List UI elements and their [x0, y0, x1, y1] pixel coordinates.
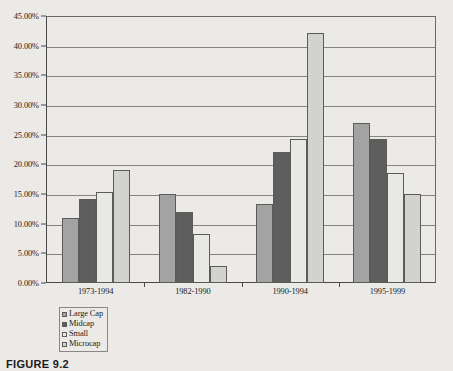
- y-tick-label: 0.00%: [18, 279, 39, 288]
- bar[interactable]: [176, 212, 193, 283]
- x-tick-mark: [144, 283, 145, 287]
- bar[interactable]: [290, 139, 307, 283]
- bar[interactable]: [113, 170, 130, 283]
- y-tick-label: 30.00%: [14, 101, 39, 110]
- bar[interactable]: [370, 139, 387, 283]
- y-tick-label: 25.00%: [14, 130, 39, 139]
- figure-caption: FIGURE 9.2: [6, 358, 69, 370]
- bar-group: [159, 16, 227, 283]
- bar-group: [62, 16, 130, 283]
- x-tick-label: 1982-1990: [175, 287, 210, 296]
- bar[interactable]: [210, 266, 227, 283]
- legend-item[interactable]: Microcap: [62, 339, 103, 349]
- legend-item[interactable]: Small: [62, 329, 103, 339]
- bar-group: [256, 16, 324, 283]
- x-tick-label: 1990-1994: [272, 287, 307, 296]
- y-tick-label: 20.00%: [14, 160, 39, 169]
- bar[interactable]: [256, 204, 273, 283]
- y-axis: 0.00%5.00%10.00%15.00%20.00%25.00%30.00%…: [0, 0, 46, 284]
- legend-swatch-icon: [62, 332, 67, 337]
- legend-swatch-icon: [62, 342, 67, 347]
- legend-label: Large Cap: [69, 309, 103, 319]
- bar[interactable]: [96, 192, 113, 283]
- x-tick-label: 1973-1994: [78, 287, 113, 296]
- legend-label: Midcap: [69, 319, 94, 329]
- bars-layer: [47, 16, 436, 283]
- legend-swatch-icon: [62, 322, 67, 327]
- bar[interactable]: [353, 123, 370, 283]
- legend-swatch-icon: [62, 312, 67, 317]
- legend-label: Small: [69, 329, 88, 339]
- y-tick-label: 40.00%: [14, 41, 39, 50]
- y-tick-label: 35.00%: [14, 71, 39, 80]
- figure-container: 0.00%5.00%10.00%15.00%20.00%25.00%30.00%…: [0, 0, 453, 371]
- bar[interactable]: [62, 218, 79, 283]
- y-tick-label: 10.00%: [14, 219, 39, 228]
- bar[interactable]: [273, 152, 290, 283]
- y-tick-label: 45.00%: [14, 12, 39, 21]
- legend-item[interactable]: Large Cap: [62, 309, 103, 319]
- y-tick-label: 15.00%: [14, 190, 39, 199]
- bar[interactable]: [193, 234, 210, 283]
- chart-legend: Large CapMidcapSmallMicrocap: [59, 307, 108, 352]
- legend-label: Microcap: [69, 339, 100, 349]
- x-tick-mark: [339, 283, 340, 287]
- bar-group: [353, 16, 421, 283]
- x-axis: 1973-19941982-19901990-19941995-1999: [47, 287, 436, 303]
- x-tick-label: 1995-1999: [370, 287, 405, 296]
- bar[interactable]: [404, 194, 421, 283]
- bar[interactable]: [79, 199, 96, 283]
- bar[interactable]: [159, 194, 176, 283]
- x-tick-mark: [242, 283, 243, 287]
- bar[interactable]: [387, 173, 404, 283]
- legend-item[interactable]: Midcap: [62, 319, 103, 329]
- bar[interactable]: [307, 33, 324, 283]
- y-tick-label: 5.00%: [18, 249, 39, 258]
